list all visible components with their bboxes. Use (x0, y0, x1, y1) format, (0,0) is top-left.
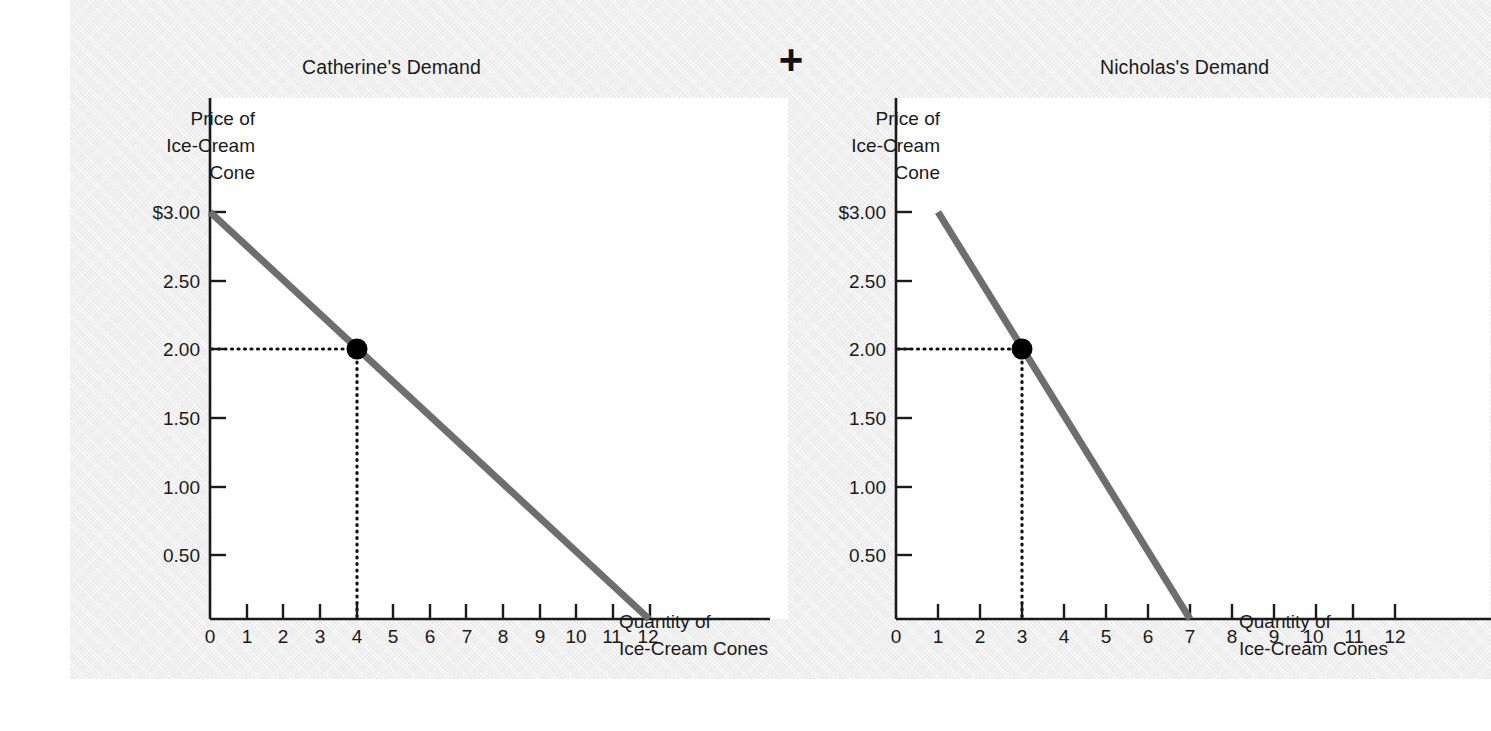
demand-curve-catherine (210, 212, 649, 619)
x-tick-marks (247, 604, 650, 619)
equilibrium-point-marker (347, 339, 368, 360)
y-tick-marks (210, 212, 226, 555)
chart-catherines-demand: Catherine's Demand Price of Ice-Cream Co… (70, 0, 770, 679)
plot-svg (790, 0, 1491, 679)
demand-curve-nicholas (938, 212, 1190, 619)
x-tick-marks (938, 604, 1395, 619)
equilibrium-point-marker (1012, 339, 1033, 360)
plot-svg (70, 0, 771, 679)
y-tick-marks (896, 212, 912, 555)
chart-nicholass-demand: Nicholas's Demand Price of Ice-Cream Con… (790, 0, 1491, 679)
demand-curves-figure: Catherine's Demand Price of Ice-Cream Co… (0, 0, 1491, 731)
